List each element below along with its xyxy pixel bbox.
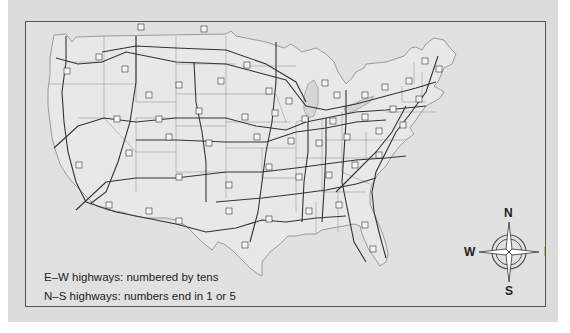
legend-east-west: E–W highways: numbered by tens [44,268,236,287]
compass-south: S [505,284,513,298]
map-legend: E–W highways: numbered by tens N–S highw… [44,268,236,306]
legend-north-south: N–S highways: numbers end in 1 or 5 [44,287,236,306]
compass-north: N [504,206,513,220]
us-land-outline [48,31,456,276]
compass-east: E [544,245,546,259]
compass-west: W [464,245,475,259]
map-frame: E–W highways: numbered by tens N–S highw… [25,21,546,307]
compass-rose: N S W E [464,207,546,297]
